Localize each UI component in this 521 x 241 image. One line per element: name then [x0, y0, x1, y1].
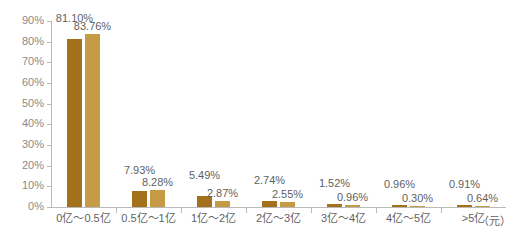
y-axis-tick-label: 30% — [0, 139, 44, 150]
y-axis-tick-label: 70% — [0, 56, 44, 67]
bar — [457, 205, 472, 207]
y-axis-tick-label: 60% — [0, 77, 44, 88]
y-axis-tick-label: 0% — [0, 201, 44, 212]
x-axis-line — [51, 207, 506, 208]
bar-group: 0.91%0.64% — [51, 21, 506, 207]
bar-chart: 0%10%20%30%40%50%60%70%80%90% 81.10%83.7… — [0, 0, 521, 241]
y-axis-tick-label: 80% — [0, 36, 44, 47]
y-axis-tick-label: 50% — [0, 98, 44, 109]
bar — [475, 206, 490, 207]
y-axis-tick-label: 10% — [0, 180, 44, 191]
y-axis-tick-label: 40% — [0, 118, 44, 129]
bar-value-label: 0.91% — [444, 178, 486, 190]
y-axis-tick-mark — [47, 207, 52, 208]
y-axis-tick-label: 90% — [0, 15, 44, 26]
plot-area: 81.10%83.76%7.93%8.28%5.49%2.87%2.74%2.5… — [51, 21, 506, 207]
x-axis-unit-label: （元） — [478, 212, 511, 228]
y-axis-tick-label: 20% — [0, 160, 44, 171]
bar-value-label: 0.64% — [462, 192, 504, 204]
